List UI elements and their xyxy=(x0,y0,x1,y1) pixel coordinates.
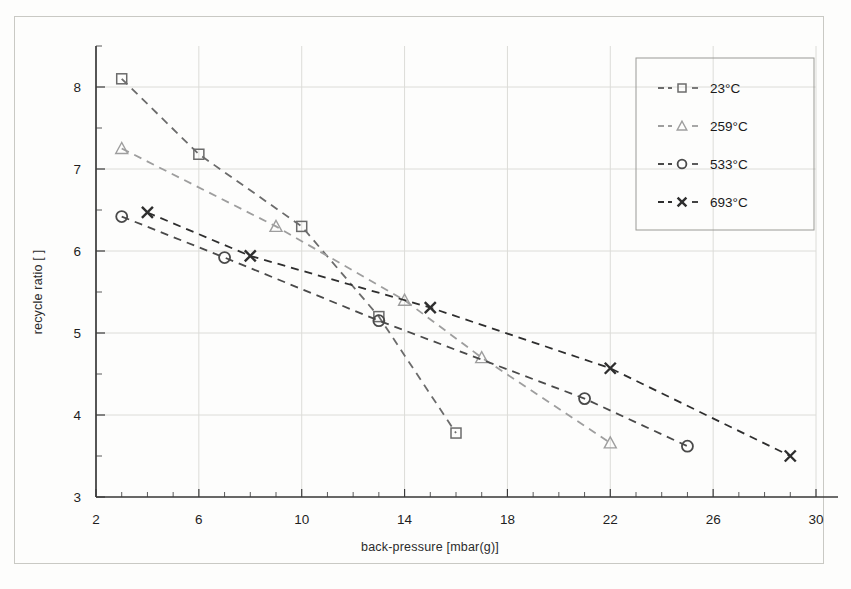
chart-svg: 26101418222630345678 back-pressure [mbar… xyxy=(0,0,851,589)
series-693°C xyxy=(142,207,796,462)
marker-circle xyxy=(678,160,687,169)
x-axis-title: back-pressure [mbar(g)] xyxy=(361,540,499,554)
legend-item-259°C[interactable]: 259°C xyxy=(658,119,748,134)
plot-area: 26101418222630345678 back-pressure [mbar… xyxy=(0,0,851,589)
series-23°C xyxy=(117,74,461,438)
legend: 23°C259°C533°C693°C xyxy=(636,58,814,230)
marker-triangle xyxy=(677,121,687,130)
x-tick-label: 10 xyxy=(294,512,309,527)
legend-label: 693°C xyxy=(710,195,748,210)
y-axis-title: recycle ratio [ ] xyxy=(31,250,45,335)
x-tick-label: 22 xyxy=(603,512,618,527)
y-tick-label: 7 xyxy=(73,162,81,177)
legend-label: 23°C xyxy=(710,81,740,96)
series-line xyxy=(147,212,790,456)
y-tick-label: 6 xyxy=(73,244,81,259)
series-259°C xyxy=(116,143,617,448)
legend-label: 259°C xyxy=(710,119,748,134)
y-tick-label: 4 xyxy=(73,408,81,423)
gridlines xyxy=(96,46,816,497)
x-tick-label: 18 xyxy=(500,512,515,527)
marker-triangle xyxy=(116,143,128,154)
x-tick-label: 14 xyxy=(397,512,413,527)
legend-label: 533°C xyxy=(710,157,748,172)
x-tick-label: 2 xyxy=(92,512,100,527)
x-tick-label: 6 xyxy=(195,512,203,527)
legend-item-693°C[interactable]: 693°C xyxy=(658,195,748,210)
series-line xyxy=(122,79,456,433)
legend-item-533°C[interactable]: 533°C xyxy=(658,157,748,172)
legend-item-23°C[interactable]: 23°C xyxy=(658,81,740,96)
chart-page: 26101418222630345678 back-pressure [mbar… xyxy=(0,0,851,589)
y-tick-label: 3 xyxy=(73,490,81,505)
tick-labels: 26101418222630345678 xyxy=(73,80,823,527)
marker-circle xyxy=(219,252,230,263)
marker-circle xyxy=(682,441,693,452)
x-tick-label: 30 xyxy=(808,512,823,527)
marker-x xyxy=(678,198,687,207)
tick-marks xyxy=(96,46,816,497)
y-tick-label: 5 xyxy=(73,326,81,341)
data-series xyxy=(116,74,796,462)
marker-x xyxy=(425,302,436,313)
y-tick-label: 8 xyxy=(73,80,81,95)
marker-square xyxy=(678,84,686,92)
x-tick-label: 26 xyxy=(706,512,721,527)
series-line xyxy=(122,149,611,443)
marker-x xyxy=(142,207,153,218)
axis-lines xyxy=(96,46,838,497)
marker-x xyxy=(785,451,796,462)
marker-x xyxy=(245,250,256,261)
